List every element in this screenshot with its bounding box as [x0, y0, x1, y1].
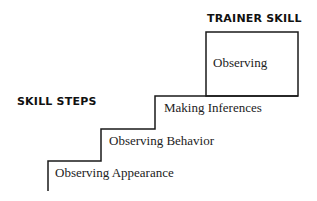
step-making-inferences: Making Inferences [164, 100, 262, 116]
skill-steps-header: SKILL STEPS [17, 95, 97, 108]
step-observing-behavior: Observing Behavior [109, 133, 214, 149]
trainer-box-label: Observing [213, 55, 267, 71]
step-observing-appearance: Observing Appearance [55, 165, 174, 181]
trainer-skill-header: TRAINER SKILL [207, 12, 302, 25]
